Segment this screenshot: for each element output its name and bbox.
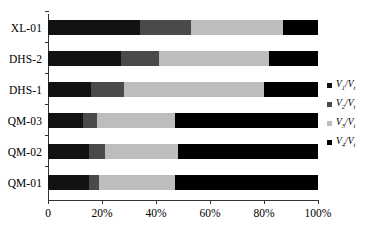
x-axis-tick xyxy=(264,200,265,204)
y-axis-tick xyxy=(45,11,49,12)
bar-segment-v3 xyxy=(191,20,283,35)
y-axis-label-qm-02: QM-02 xyxy=(8,145,42,159)
bar-row xyxy=(48,175,318,190)
x-axis-tick-label: 80% xyxy=(253,206,274,220)
legend-label: V1/Vt xyxy=(336,79,355,93)
bar-segment-v3 xyxy=(97,113,175,128)
x-axis-tick-label: 20% xyxy=(91,206,112,220)
bar-segment-v2 xyxy=(121,51,159,66)
legend-label: V3/Vt xyxy=(336,117,355,131)
bar-segment-v1 xyxy=(48,144,89,159)
y-axis-label-qm-03: QM-03 xyxy=(8,114,42,128)
bar-segment-v4 xyxy=(283,20,318,35)
legend-swatch-icon xyxy=(327,102,332,107)
bar-segment-v2 xyxy=(89,144,105,159)
legend-label: V4/Vt xyxy=(336,136,355,150)
bar-row xyxy=(48,113,318,128)
x-axis-tick-label: 40% xyxy=(145,206,166,220)
bar-segment-v3 xyxy=(105,144,178,159)
bar-series-container xyxy=(48,14,318,200)
y-axis-label-xl-01: XL-01 xyxy=(11,21,42,35)
legend-label: V2/Vt xyxy=(336,98,355,112)
bar-segment-v2 xyxy=(89,175,100,190)
legend-item-v3[interactable]: V3/Vt xyxy=(327,118,368,129)
x-axis-tick-labels: 020%40%60%80%100% xyxy=(0,206,368,222)
legend-item-v2[interactable]: V2/Vt xyxy=(327,99,368,110)
legend-item-v4[interactable]: V4/Vt xyxy=(327,137,368,148)
x-axis-tick-label: 60% xyxy=(199,206,220,220)
bar-segment-v4 xyxy=(175,175,318,190)
legend-swatch-icon xyxy=(327,140,332,145)
bar-segment-v1 xyxy=(48,175,89,190)
bar-segment-v3 xyxy=(124,82,264,97)
bar-row xyxy=(48,51,318,66)
bar-segment-v3 xyxy=(159,51,270,66)
legend-swatch-icon xyxy=(327,83,332,88)
bar-row xyxy=(48,82,318,97)
bar-segment-v2 xyxy=(140,20,191,35)
bar-segment-v4 xyxy=(269,51,318,66)
bar-segment-v4 xyxy=(175,113,318,128)
bar-segment-v3 xyxy=(99,175,175,190)
x-axis-tick-label: 100% xyxy=(305,206,332,220)
bar-row xyxy=(48,144,318,159)
stacked-bar-chart: XL-01DHS-2DHS-1QM-03QM-02QM-01 020%40%60… xyxy=(0,0,368,233)
bar-segment-v1 xyxy=(48,20,140,35)
y-axis-label-dhs-1: DHS-1 xyxy=(9,83,42,97)
bar-segment-v2 xyxy=(83,113,97,128)
x-axis-tick xyxy=(102,200,103,204)
bar-segment-v1 xyxy=(48,51,121,66)
x-axis-tick xyxy=(210,200,211,204)
y-axis-label-dhs-2: DHS-2 xyxy=(9,52,42,66)
x-axis-tick xyxy=(156,200,157,204)
legend-swatch-icon xyxy=(327,121,332,126)
y-axis-label-qm-01: QM-01 xyxy=(8,176,42,190)
bar-segment-v4 xyxy=(178,144,318,159)
legend-item-v1[interactable]: V1/Vt xyxy=(327,80,368,91)
x-axis-tick xyxy=(318,200,319,204)
bar-segment-v1 xyxy=(48,82,91,97)
bar-row xyxy=(48,20,318,35)
chart-legend: V1/VtV2/VtV3/VtV4/Vt xyxy=(327,80,368,156)
y-axis-category-labels: XL-01DHS-2DHS-1QM-03QM-02QM-01 xyxy=(0,14,45,200)
x-axis-tick-label: 0 xyxy=(45,206,51,220)
bar-segment-v1 xyxy=(48,113,83,128)
x-axis-line xyxy=(48,200,319,201)
bar-segment-v4 xyxy=(264,82,318,97)
x-axis-tick xyxy=(48,200,49,204)
bar-segment-v2 xyxy=(91,82,123,97)
